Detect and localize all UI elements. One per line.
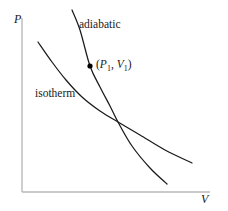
- state-point-label: (P1, V1): [96, 59, 132, 73]
- point-pressure-symbol: P: [100, 58, 107, 70]
- state-point-marker-icon: [87, 63, 92, 68]
- pv-diagram-figure: P V adiabatic isotherm (P1, V1): [0, 0, 228, 211]
- point-paren-close: ): [128, 58, 132, 70]
- adiabatic-curve: [72, 10, 167, 184]
- x-axis-label: V: [201, 193, 208, 205]
- plot-canvas: [0, 0, 228, 211]
- isotherm-curve-label: isotherm: [35, 88, 75, 100]
- adiabatic-curve-label: adiabatic: [79, 19, 121, 31]
- point-volume-symbol: V: [117, 58, 124, 70]
- y-axis-label: P: [14, 13, 21, 25]
